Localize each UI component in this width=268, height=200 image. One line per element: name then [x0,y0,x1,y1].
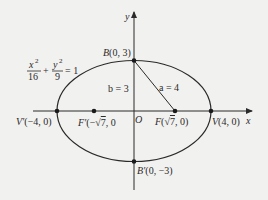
label-b-equals: b = 3 [108,83,129,94]
svg-text:= 1: = 1 [65,65,78,76]
label-f: F(√7, 0) [154,116,188,128]
svg-text:16: 16 [28,71,38,82]
label-b: B(0, 3) [103,47,131,59]
svg-text:x: x [28,59,34,70]
point-f-prime [92,109,97,114]
label-v: V(4, 0) [212,116,240,128]
svg-text:2: 2 [59,57,63,65]
svg-text:2: 2 [35,57,39,65]
origin-label: O [135,114,142,125]
point-v-prime [55,109,60,114]
label-a-equals: a = 4 [159,82,179,93]
diagram-svg: y x O B(0, 3) B′(0, −3) V′(−4, 0) V(4, 0… [0,0,268,200]
svg-text:9: 9 [55,71,60,82]
svg-text:y: y [52,59,58,70]
label-f-prime: F′(−√7, 0 [77,117,116,129]
svg-text:+: + [43,65,49,76]
ellipse-diagram: y x O B(0, 3) B′(0, −3) V′(−4, 0) V(4, 0… [0,0,268,200]
point-f [173,109,178,114]
ellipse-equation: x 2 16 + y 2 9 = 1 [27,57,78,82]
x-axis-label: x [245,115,251,126]
label-b-prime: B′(0, −3) [137,165,173,177]
point-v [209,109,214,114]
point-b-prime [132,159,137,164]
y-axis-label: y [124,11,130,22]
label-v-prime: V′(−4, 0) [16,116,52,128]
point-b [132,58,137,63]
